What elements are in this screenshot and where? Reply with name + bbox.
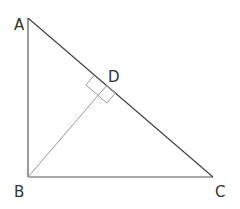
segment-bd: [28, 86, 107, 177]
label-c: C: [215, 183, 225, 201]
label-d: D: [108, 68, 120, 86]
segment-ac: [28, 18, 213, 177]
label-a: A: [14, 16, 25, 34]
label-b: B: [14, 183, 24, 201]
triangle-diagram: A B C D: [0, 0, 240, 209]
